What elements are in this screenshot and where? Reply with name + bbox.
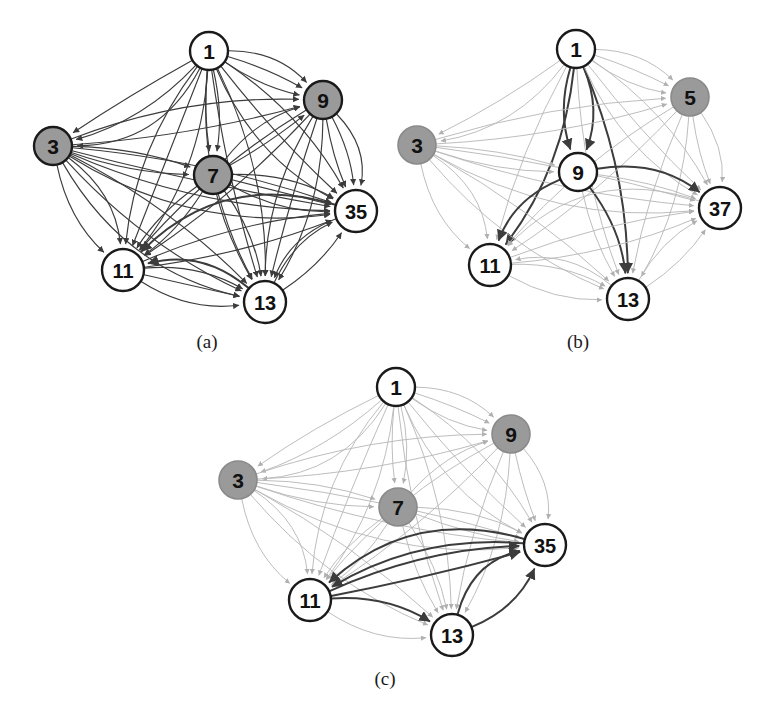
node-c-9[interactable]: 9 — [492, 415, 530, 453]
node-label: 11 — [112, 260, 133, 282]
node-label: 1 — [390, 376, 402, 399]
node-label: 5 — [684, 86, 696, 109]
panel-caption-a: (a) — [196, 331, 217, 353]
node-a-9[interactable]: 9 — [304, 81, 342, 119]
panel-caption-c: (c) — [374, 668, 395, 690]
node-c-3[interactable]: 3 — [219, 461, 257, 499]
node-label: 1 — [203, 40, 215, 63]
node-label: 3 — [411, 134, 423, 157]
node-label: 1 — [570, 38, 582, 61]
node-label: 3 — [47, 135, 59, 158]
node-label: 37 — [709, 198, 731, 220]
node-label: 13 — [441, 625, 463, 647]
node-label: 35 — [345, 201, 367, 223]
node-label: 7 — [392, 496, 404, 519]
node-a-11[interactable]: 11 — [102, 249, 144, 291]
panel-caption-b: (b) — [567, 331, 589, 353]
node-c-11[interactable]: 11 — [289, 579, 331, 621]
figure-background — [0, 0, 767, 727]
node-a-7[interactable]: 7 — [194, 156, 232, 194]
node-label: 9 — [572, 161, 584, 184]
node-a-35[interactable]: 35 — [335, 190, 377, 232]
node-b-13[interactable]: 13 — [607, 278, 649, 320]
node-c-1[interactable]: 1 — [377, 368, 415, 406]
node-c-7[interactable]: 7 — [379, 488, 417, 526]
node-label: 11 — [479, 255, 500, 277]
node-a-13[interactable]: 13 — [244, 281, 286, 323]
node-label: 3 — [232, 469, 244, 492]
node-b-9[interactable]: 9 — [559, 153, 597, 191]
node-a-1[interactable]: 1 — [190, 32, 228, 70]
node-label: 13 — [617, 289, 639, 311]
node-label: 35 — [534, 535, 556, 557]
node-c-13[interactable]: 13 — [431, 614, 473, 656]
node-a-3[interactable]: 3 — [34, 127, 72, 165]
node-label: 11 — [299, 590, 320, 612]
node-label: 13 — [254, 292, 276, 314]
node-b-5[interactable]: 5 — [671, 78, 709, 116]
node-label: 9 — [317, 89, 329, 112]
node-b-1[interactable]: 1 — [557, 30, 595, 68]
node-b-3[interactable]: 3 — [398, 126, 436, 164]
node-b-37[interactable]: 37 — [699, 187, 741, 229]
node-c-35[interactable]: 35 — [524, 524, 566, 566]
node-label: 7 — [207, 164, 219, 187]
node-b-11[interactable]: 11 — [469, 244, 511, 286]
graph-figure: 1397351113(a)1539371113(b)1937351113(c) — [0, 0, 767, 727]
node-label: 9 — [505, 423, 517, 446]
